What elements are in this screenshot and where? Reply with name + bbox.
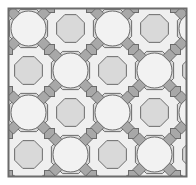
medium-octagon — [15, 141, 43, 169]
medium-octagon — [99, 141, 127, 169]
tiling-figure: Geometric tiling pattern Square-lattice … — [0, 0, 196, 185]
medium-octagon — [141, 99, 169, 127]
medium-octagon — [99, 57, 127, 85]
medium-octagon — [141, 15, 169, 43]
medium-octagon — [57, 15, 85, 43]
medium-octagon — [57, 99, 85, 127]
medium-octagon — [15, 57, 43, 85]
tiling-canvas: Geometric tiling pattern Square-lattice … — [0, 0, 196, 185]
